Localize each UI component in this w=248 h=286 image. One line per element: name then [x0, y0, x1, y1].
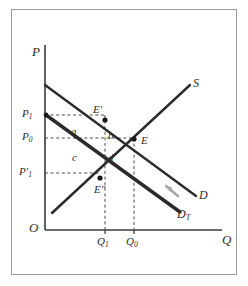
quantity-tick-q1: Q1: [97, 236, 109, 248]
point-marker-e: [131, 136, 136, 141]
point-label-e-double-prime-base: E: [94, 183, 101, 195]
point-marker-e-double-prime: [97, 175, 102, 180]
price-tick-p1-sub: 1: [29, 112, 33, 121]
diagram-canvas: [0, 0, 248, 286]
double-prime-mark: ″: [101, 183, 106, 195]
point-marker-e-prime: [102, 117, 107, 122]
quantity-tick-q0: Q0: [126, 236, 138, 248]
demand-after-tax-sub: T: [186, 213, 191, 222]
price-tick-p1-prime-base: P: [19, 165, 26, 177]
demand-after-tax-curve-label: DT: [177, 208, 190, 222]
point-label-e-double-prime: E″: [94, 184, 105, 195]
point-label-e-prime: E′: [93, 104, 102, 115]
quantity-tick-q0-base: Q: [126, 235, 134, 247]
price-tick-p1-base: P: [22, 107, 29, 119]
figure-root: P Q O P1 P0 P′1 Q1 Q0 S D DT E′ E E″ a b…: [0, 0, 248, 286]
price-tick-p1-prime-sub: 1: [28, 170, 32, 179]
demand-curve-label: D: [199, 189, 208, 201]
quantity-tick-q0-sub: 0: [134, 240, 138, 249]
price-tick-p1: P1: [22, 108, 32, 120]
price-tick-p0: P0: [22, 131, 32, 143]
price-tick-p1-prime: P′1: [19, 166, 32, 178]
quantity-axis-label: Q: [222, 233, 231, 246]
region-label-c: c: [72, 152, 77, 163]
demand-after-tax-base: D: [177, 207, 186, 221]
tax-wedge-arrow: [166, 186, 178, 196]
supply-curve-label: S: [193, 77, 199, 89]
origin-label: O: [29, 221, 38, 234]
guide-line-group: [45, 115, 134, 230]
price-tick-p0-base: P: [22, 130, 29, 142]
price-axis-label: P: [32, 45, 40, 58]
point-label-e-prime-base: E: [93, 103, 100, 115]
region-label-b: b: [108, 130, 114, 141]
region-label-d: d: [108, 152, 114, 163]
quantity-tick-q1-base: Q: [97, 235, 105, 247]
quantity-tick-q1-sub: 1: [105, 240, 109, 249]
price-tick-p0-sub: 0: [29, 135, 33, 144]
point-label-e: E: [141, 135, 148, 146]
prime-mark: ′: [100, 103, 102, 115]
region-label-a: a: [71, 126, 77, 137]
point-marker-p1-intercept: [44, 113, 49, 118]
